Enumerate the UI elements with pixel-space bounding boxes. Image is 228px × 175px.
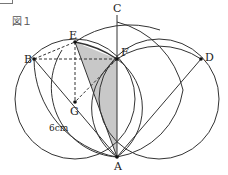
- label-b: B: [24, 54, 32, 65]
- label-c: C: [113, 3, 121, 14]
- label-e: E: [69, 30, 77, 41]
- point-a: [115, 155, 119, 159]
- measure-label: 6cm: [49, 124, 68, 133]
- point-d: [199, 57, 203, 61]
- point-f: [115, 57, 119, 61]
- label-d: D: [205, 52, 214, 63]
- arc-f-d: [117, 46, 201, 59]
- point-g: [73, 100, 77, 104]
- geometry-diagram: [0, 0, 228, 175]
- arc-right-inner: [117, 22, 183, 157]
- label-f: F: [121, 47, 129, 58]
- point-b: [32, 57, 36, 61]
- label-g: G: [70, 106, 79, 117]
- label-a: A: [114, 161, 122, 172]
